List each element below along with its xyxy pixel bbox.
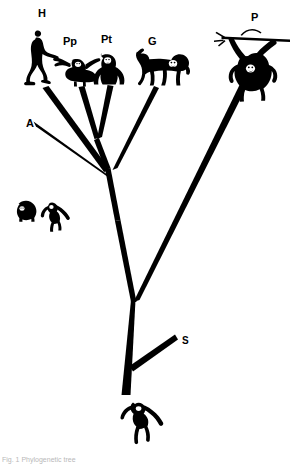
taxon-label-P: P — [251, 12, 258, 23]
bonobo-silhouette — [53, 58, 100, 87]
outgroup-monkey-silhouette — [120, 403, 163, 445]
taxon-label-H: H — [38, 8, 46, 19]
phylogenetic-tree-figure: H Pp Pt G P A S Fig. 1 Phylogenetic tree — [0, 0, 306, 464]
gorilla-silhouette — [136, 48, 190, 85]
caption-fragment: Fig. 1 Phylogenetic tree — [2, 455, 182, 464]
taxon-label-Pt: Pt — [101, 34, 112, 45]
branch-G — [113, 86, 160, 170]
chimpanzee-silhouette — [94, 53, 125, 84]
branch-S — [130, 335, 179, 372]
taxon-label-G: G — [148, 36, 157, 47]
siamang-silhouette — [17, 201, 37, 222]
branch-lower-left — [115, 220, 137, 302]
orangutan-silhouette — [214, 29, 290, 102]
branch-P — [134, 85, 247, 302]
branch-Pp — [79, 86, 100, 139]
taxon-label-A: A — [26, 118, 34, 129]
tree-branches — [34, 85, 247, 395]
taxon-label-S: S — [182, 336, 189, 346]
taxon-label-Pp: Pp — [63, 36, 77, 47]
branch-Pt — [97, 85, 114, 139]
gibbon-silhouette — [41, 203, 70, 232]
human-silhouette — [24, 30, 59, 85]
tree-diagram-svg — [0, 0, 306, 464]
branch-trunk — [122, 300, 136, 395]
